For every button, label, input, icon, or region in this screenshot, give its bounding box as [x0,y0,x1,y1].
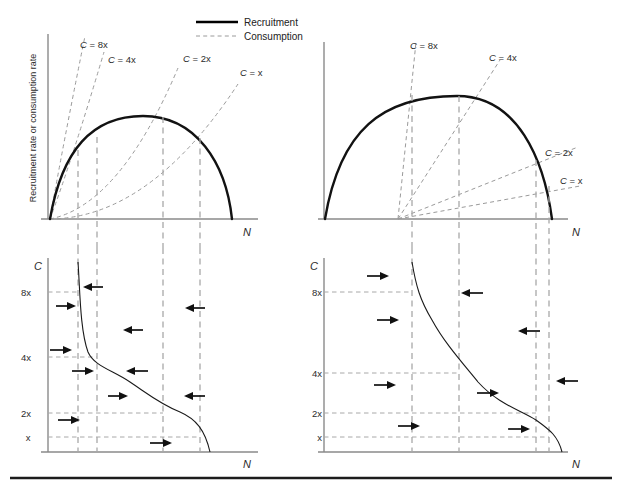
arrow-left [83,283,103,291]
recruitment-curve-top-left [50,116,232,219]
arrow-left [123,326,143,334]
label-c-8x-top-right: C = 8x [410,40,438,51]
arrow-left [184,392,205,400]
arrow-left [126,367,148,375]
top-left-xlabel: N [243,226,251,238]
panel-top-left: C = 8x C = 4x C = 2x C = x N Recruitment… [28,17,303,248]
bottom-left-ylabel: C [34,260,42,272]
isocline-bottom-right [412,262,562,452]
label-c-8x-top-left: C = 8x [80,39,108,50]
arrow-right [377,316,399,324]
panel-bottom-left: 8x 4x 2x x C N [21,248,258,470]
arrow-right [50,346,72,354]
legend-label-consumption: Consumption [244,31,303,42]
arrow-left [185,304,205,312]
consumption-line-4x-right [398,60,500,219]
ytick-4x-bottom-right: 4x [312,368,322,379]
arrow-left [461,289,483,297]
legend-label-recruitment: Recruitment [244,17,298,28]
arrow-right [150,439,172,447]
recruitment-curve-top-right [325,96,552,219]
arrow-right [72,367,94,375]
label-c-4x-top-right: C = 4x [489,52,517,63]
ytick-2x-bottom-right: 2x [312,408,322,419]
arrow-right [56,302,76,310]
bottom-right-ylabel: C [310,260,318,272]
arrow-left [556,377,578,385]
label-c-x-top-left: C = x [240,67,263,78]
legend: Recruitment Consumption [196,17,303,42]
arrow-right [477,389,499,397]
ytick-8x-bottom-left: 8x [21,287,31,298]
bottom-right-xlabel: N [572,458,580,470]
arrow-left [518,327,540,335]
panel-top-right: C = 8x C = 4x C = 2x C = x N [318,40,583,248]
flow-arrows-bottom-left [50,283,205,447]
arrow-right [108,392,128,400]
arrow-right [374,381,396,389]
top-left-ylabel: Recruitment rate or consumption rate [28,54,38,203]
arrow-right [398,422,420,430]
label-c-x-top-right: C = x [560,175,583,186]
ytick-x-bottom-left: x [26,432,31,443]
label-c-2x-top-right: C = 2x [545,147,573,158]
ytick-2x-bottom-left: 2x [21,408,31,419]
consumption-curve-2x [50,68,178,219]
ytick-4x-bottom-left: 4x [21,352,31,363]
consumption-line-8x-right [398,42,416,219]
figure-root: C = 8x C = 4x C = 2x C = x N Recruitment… [0,0,622,496]
isocline-bottom-left [78,262,210,452]
label-c-2x-top-left: C = 2x [183,53,211,64]
arrow-right [508,425,530,433]
label-c-4x-top-left: C = 4x [108,54,136,65]
panel-bottom-right: 8x 4x 2x x C N [310,248,580,470]
figure-canvas: C = 8x C = 4x C = 2x C = x N Recruitment… [0,0,622,496]
flow-arrows-bottom-right [367,272,578,433]
bottom-left-xlabel: N [243,458,251,470]
arrow-right [367,272,389,280]
ytick-x-bottom-right: x [317,432,322,443]
consumption-line-x-right [398,186,580,219]
arrow-right [58,416,80,424]
top-right-xlabel: N [572,226,580,238]
ytick-8x-bottom-right: 8x [312,287,322,298]
